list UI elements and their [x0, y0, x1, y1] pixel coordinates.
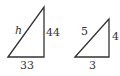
- large-triangle-shape: [8, 7, 44, 57]
- diagram-canvas: h 44 33 5 4 3: [0, 0, 120, 76]
- large-hypotenuse-label: h: [15, 24, 22, 37]
- large-vertical-leg-label: 44: [46, 26, 60, 39]
- large-horizontal-leg-label: 33: [20, 59, 34, 72]
- large-triangle: h 44 33: [8, 7, 60, 72]
- small-hypotenuse-label: 5: [81, 25, 88, 38]
- small-triangle: 5 4 3: [75, 19, 119, 72]
- small-vertical-leg-label: 4: [112, 30, 119, 43]
- small-horizontal-leg-label: 3: [89, 59, 96, 72]
